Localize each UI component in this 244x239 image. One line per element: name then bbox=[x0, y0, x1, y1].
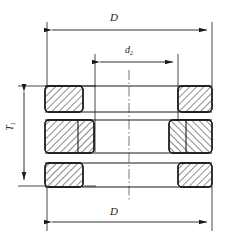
drawing-canvas: D d2 T1 D bbox=[0, 0, 244, 239]
dimension-label-d2: d2 bbox=[125, 45, 133, 56]
top-right-ring bbox=[178, 86, 212, 112]
bottom-left-ring bbox=[45, 163, 83, 187]
dimension-label-D-top: D bbox=[110, 12, 118, 23]
bottom-right-ring bbox=[178, 163, 212, 187]
bearing-cross-section-svg bbox=[0, 0, 244, 239]
middle-left-ring bbox=[45, 120, 94, 153]
middle-right-ring bbox=[169, 120, 212, 153]
dimension-label-D-bottom: D bbox=[110, 206, 118, 217]
dimension-label-T1: T1 bbox=[5, 122, 16, 131]
top-left-ring bbox=[45, 86, 83, 112]
ring-sections bbox=[45, 86, 212, 187]
